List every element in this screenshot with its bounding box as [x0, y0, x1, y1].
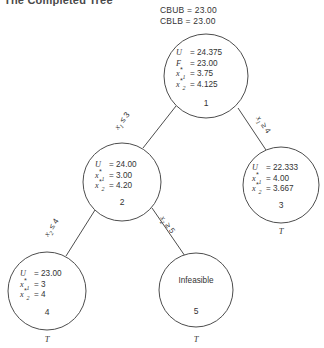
- node-1-row-F: F= 23.00: [176, 59, 222, 70]
- node-1-x2-value: = 4.125: [190, 80, 218, 89]
- node-5-infeasible-text: Infeasible: [166, 276, 226, 285]
- node-4-terminal-mark: T: [37, 334, 57, 344]
- node-1-body: U= 24.375 F= 23.00 x*1= 3.75 x*2= 4.125: [176, 48, 222, 90]
- node-4-body: U= 23.00 x*1= 3 x*2= 4: [20, 269, 62, 301]
- node-1-row-x1: x*1= 3.75: [176, 69, 222, 80]
- node-3-label: 3: [271, 200, 291, 210]
- node-4-x1-value: = 3: [34, 280, 46, 289]
- node-2-label: 2: [112, 197, 132, 207]
- node-3-row-x2: x*2= 3.667: [252, 184, 298, 195]
- node-1-x1-value: = 3.75: [190, 69, 213, 78]
- node-3-x1-value: = 4.00: [266, 174, 289, 183]
- completed-tree-figure: The Completed Tree CBUB = 23.00 CBLB = 2…: [0, 0, 324, 348]
- node-1-row-x2: x*2= 4.125: [176, 80, 222, 91]
- global-bounds: CBUB = 23.00 CBLB = 23.00: [160, 5, 217, 27]
- node-1-F-value: = 23.00: [190, 59, 218, 68]
- node-3-body: U= 22.333 x*1= 4.00 x*2= 3.667: [252, 163, 298, 195]
- node-4-x2-sub: 2: [26, 295, 29, 301]
- node-2-U-value: = 24.00: [109, 160, 137, 169]
- node-2-row-x2: x*2= 4.20: [95, 181, 137, 192]
- node-4-x2-value: = 4: [34, 290, 46, 299]
- node-3-row-x1: x*1= 4.00: [252, 174, 298, 185]
- node-3-U-value: = 22.333: [266, 163, 298, 172]
- node-3-row-U: U= 22.333: [252, 163, 298, 174]
- node-2-body: U= 24.00 x*1= 3.00 x*2= 4.20: [95, 160, 137, 192]
- node-3-x2-sub: 2: [258, 189, 261, 195]
- node-3-x2-value: = 3.667: [266, 184, 294, 193]
- node-3-terminal-mark: T: [271, 226, 291, 236]
- cblb-text: CBLB = 23.00: [160, 16, 217, 27]
- node-5-label: 5: [186, 306, 206, 316]
- node-2-x2-sub: 2: [101, 186, 104, 192]
- node-1-x2-sub: 2: [182, 84, 185, 90]
- node-2-x2-value: = 4.20: [109, 181, 132, 190]
- cbub-text: CBUB = 23.00: [160, 5, 217, 16]
- edge-1-to-2: [143, 106, 176, 148]
- node-4-row-x2: x*2= 4: [20, 290, 62, 301]
- node-5-terminal-mark: T: [186, 334, 206, 344]
- node-1-U-value: = 24.375: [190, 48, 222, 57]
- node-1-U-symbol: U: [176, 48, 182, 57]
- node-4-label: 4: [37, 307, 57, 317]
- node-4-U-value: = 23.00: [34, 269, 62, 278]
- node-2-x1-value: = 3.00: [109, 171, 132, 180]
- node-1-row-U: U= 24.375: [176, 48, 222, 59]
- edge-2-to-4: [66, 210, 95, 256]
- node-1-label: 1: [196, 98, 216, 108]
